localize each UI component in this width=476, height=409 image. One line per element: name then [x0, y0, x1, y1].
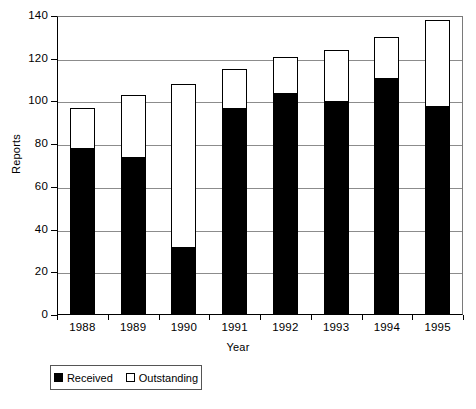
caption-remnant	[120, 400, 450, 409]
bar-segment-received	[171, 247, 196, 315]
bar-group	[121, 95, 146, 315]
y-tick-label: 0	[2, 309, 48, 321]
x-tick-mark	[57, 315, 58, 320]
bar-segment-received	[324, 101, 349, 315]
bar-segment-received	[425, 106, 450, 315]
x-tick-mark	[463, 315, 464, 320]
chart-legend: Received Outstanding	[50, 365, 202, 390]
x-axis-title: Year	[0, 341, 476, 353]
x-tick-label: 1989	[105, 321, 161, 333]
y-tick-label: 100	[2, 95, 48, 107]
x-tick-mark	[108, 315, 109, 320]
x-tick-label: 1993	[308, 321, 364, 333]
x-tick-label: 1988	[54, 321, 110, 333]
x-tick-mark	[260, 315, 261, 320]
x-tick-label: 1991	[207, 321, 263, 333]
x-tick-label: 1994	[359, 321, 415, 333]
bar-group	[70, 108, 95, 315]
y-tick-label: 20	[2, 266, 48, 278]
bar-segment-received	[70, 148, 95, 315]
bars-layer	[57, 16, 463, 315]
stacked-bar-chart-figure: Reports 020406080100120140 1988198919901…	[0, 0, 476, 409]
bar-segment-received	[222, 108, 247, 315]
bar-segment-received	[121, 157, 146, 315]
bar-segment-received	[374, 78, 399, 315]
bar-segment-received	[273, 93, 298, 315]
bar-group	[273, 57, 298, 315]
legend-item-received: Received	[54, 372, 113, 384]
y-tick-label: 80	[2, 138, 48, 150]
x-tick-label: 1995	[410, 321, 466, 333]
legend-label-outstanding: Outstanding	[139, 372, 198, 384]
x-tick-mark	[311, 315, 312, 320]
y-tick-label: 40	[2, 224, 48, 236]
bar-group	[425, 20, 450, 315]
x-tick-mark	[412, 315, 413, 320]
legend-label-received: Received	[67, 372, 113, 384]
legend-item-outstanding: Outstanding	[126, 372, 198, 384]
x-tick-label: 1990	[156, 321, 212, 333]
y-tick-label: 120	[2, 53, 48, 65]
bar-group	[324, 50, 349, 315]
x-tick-mark	[362, 315, 363, 320]
legend-swatch-outstanding-icon	[126, 373, 135, 382]
y-tick-label: 60	[2, 181, 48, 193]
bar-group	[374, 37, 399, 315]
bar-group	[222, 69, 247, 315]
y-tick-label: 140	[2, 10, 48, 22]
legend-swatch-received-icon	[54, 373, 63, 382]
x-tick-label: 1992	[257, 321, 313, 333]
x-tick-mark	[209, 315, 210, 320]
x-tick-mark	[159, 315, 160, 320]
bar-group	[171, 84, 196, 315]
